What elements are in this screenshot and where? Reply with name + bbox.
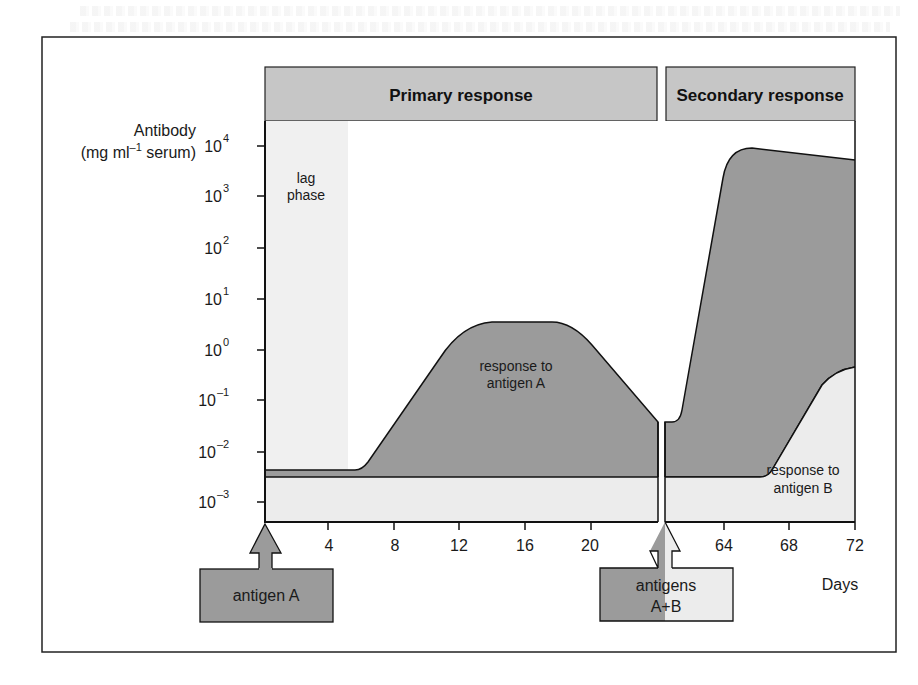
primary-response-label: Primary response xyxy=(389,86,533,105)
svg-text:antigen B: antigen B xyxy=(773,480,832,496)
antigens-ab-label-line1: antigens xyxy=(636,577,697,594)
svg-text:12: 12 xyxy=(450,537,468,554)
immune-response-diagram: Primary response Secondary response xyxy=(0,0,918,685)
svg-text:68: 68 xyxy=(780,537,798,554)
svg-text:10: 10 xyxy=(204,138,222,155)
svg-text:0: 0 xyxy=(223,336,229,348)
svg-text:–1: –1 xyxy=(217,386,229,398)
svg-text:64: 64 xyxy=(715,537,733,554)
svg-text:72: 72 xyxy=(846,537,864,554)
svg-text:8: 8 xyxy=(391,537,400,554)
secondary-response-header: Secondary response xyxy=(666,67,855,121)
svg-text:lag: lag xyxy=(297,170,316,186)
antigens-ab-label-line2: A+B xyxy=(651,598,682,615)
svg-text:4: 4 xyxy=(223,132,229,144)
antigen-a-label: antigen A xyxy=(233,587,300,604)
svg-text:20: 20 xyxy=(581,537,599,554)
svg-text:2: 2 xyxy=(223,234,229,246)
primary-response-header: Primary response xyxy=(265,67,657,121)
response-a-label: response to antigen A xyxy=(479,358,552,391)
svg-text:4: 4 xyxy=(325,537,334,554)
svg-text:10: 10 xyxy=(204,240,222,257)
svg-text:Antibody: Antibody xyxy=(134,122,196,139)
svg-text:10: 10 xyxy=(204,291,222,308)
svg-text:10: 10 xyxy=(198,444,216,461)
svg-text:16: 16 xyxy=(516,537,534,554)
svg-text:10: 10 xyxy=(198,392,216,409)
svg-text:3: 3 xyxy=(223,182,229,194)
svg-text:response to: response to xyxy=(479,358,552,374)
svg-text:response to: response to xyxy=(766,462,839,478)
svg-text:phase: phase xyxy=(287,187,325,203)
svg-text:antigen A: antigen A xyxy=(487,375,546,391)
svg-text:10: 10 xyxy=(198,494,216,511)
primary-baseline-band xyxy=(266,477,658,522)
svg-text:10: 10 xyxy=(204,188,222,205)
svg-text:1: 1 xyxy=(223,285,229,297)
x-axis-unit-label: Days xyxy=(822,576,858,593)
svg-text:–3: –3 xyxy=(217,488,229,500)
svg-text:10: 10 xyxy=(204,342,222,359)
secondary-response-label: Secondary response xyxy=(676,86,843,105)
svg-text:–2: –2 xyxy=(217,438,229,450)
